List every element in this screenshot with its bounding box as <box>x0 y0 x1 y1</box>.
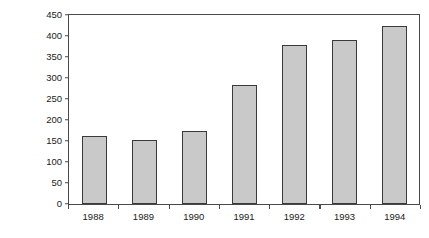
y-axis-tick: 450 <box>46 10 69 20</box>
bar-slot <box>269 15 319 204</box>
y-axis-tick: 150 <box>46 136 69 146</box>
bar-slot <box>169 15 219 204</box>
x-axis-labels: 1988198919901991199219931994 <box>68 211 420 222</box>
y-axis-tick: 100 <box>46 157 69 167</box>
x-axis-tick-mark <box>370 205 371 209</box>
y-axis-tick-label: 400 <box>46 31 65 41</box>
x-axis-tick-marks <box>68 205 420 209</box>
x-axis-tick-mark <box>68 205 69 209</box>
y-axis-tick-label: 100 <box>46 157 65 167</box>
x-axis-tick-mark <box>269 205 270 209</box>
x-axis-tick-mark <box>118 205 119 209</box>
x-axis-tick-mark <box>420 205 421 209</box>
bar-slot <box>219 15 269 204</box>
x-axis-label-1991: 1991 <box>219 211 269 222</box>
bar-1993[interactable] <box>332 40 357 204</box>
bar-1994[interactable] <box>382 26 407 204</box>
x-axis-label-1989: 1989 <box>118 211 168 222</box>
y-axis-tick-label: 50 <box>51 178 65 188</box>
bar-slot <box>319 15 369 204</box>
y-axis-tick: 50 <box>51 178 69 188</box>
y-axis-tick: 200 <box>46 115 69 125</box>
bar-1992[interactable] <box>282 45 307 204</box>
y-axis-tick-label: 350 <box>46 52 65 62</box>
x-axis-tick-mark <box>319 205 320 209</box>
bar-1988[interactable] <box>82 136 107 204</box>
bar-1991[interactable] <box>232 85 257 204</box>
bar-1990[interactable] <box>182 131 207 204</box>
x-axis-tick-mark <box>169 205 170 209</box>
x-axis-tick-mark <box>219 205 220 209</box>
y-axis-tick-label: 300 <box>46 73 65 83</box>
bar-slot <box>69 15 119 204</box>
y-axis-tick-label: 150 <box>46 136 65 146</box>
bar-1989[interactable] <box>132 140 157 204</box>
bar-slot <box>119 15 169 204</box>
plot-area: 050100150200250300350400450 <box>68 14 420 205</box>
x-axis-label-1993: 1993 <box>319 211 369 222</box>
y-axis-tick-label: 200 <box>46 115 65 125</box>
x-axis-label-1992: 1992 <box>269 211 319 222</box>
bars-layer <box>69 15 419 204</box>
x-axis-label-1988: 1988 <box>68 211 118 222</box>
y-axis-tick: 300 <box>46 73 69 83</box>
y-axis-tick: 350 <box>46 52 69 62</box>
x-axis-label-1994: 1994 <box>370 211 420 222</box>
y-axis-tick: 250 <box>46 94 69 104</box>
y-axis-tick-label: 250 <box>46 94 65 104</box>
bar-slot <box>369 15 419 204</box>
x-axis-label-1990: 1990 <box>169 211 219 222</box>
y-axis-tick-label: 0 <box>57 199 65 209</box>
y-axis-tick: 400 <box>46 31 69 41</box>
y-axis-tick-label: 450 <box>46 10 65 20</box>
bar-chart-figure: Number of Crimes 05010015020025030035040… <box>0 0 429 238</box>
